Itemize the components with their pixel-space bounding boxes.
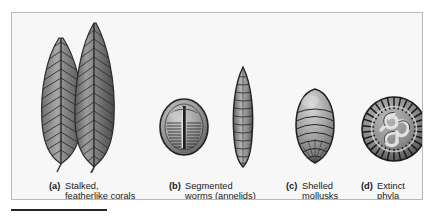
frond-fossils-svg (34, 18, 154, 173)
caption-a-line1: Stalked, (65, 181, 99, 191)
illustration-group-shelled-mollusks (284, 83, 346, 173)
caption-c-line2: mollusks (302, 191, 338, 200)
illustration-group-segmented-worms (157, 61, 267, 173)
caption-b: (b)Segmented worms (annelids) (169, 181, 256, 200)
spindle-worm-fossil (231, 67, 255, 167)
caption-a-tag: (a) (49, 181, 65, 191)
illustration-group-stalked-corals (34, 18, 154, 173)
caption-b-line1: Segmented (185, 181, 233, 191)
caption-d-line1: Extinct (377, 181, 405, 191)
caption-b-tag: (b) (169, 181, 185, 191)
discoid-extinct-fossil (362, 97, 423, 161)
caption-a-line2: featherlike corals (65, 191, 135, 200)
figure-panel: (a)Stalked, featherlike corals (b)Segmen… (11, 12, 423, 200)
bottom-divider-rule (11, 209, 107, 211)
oval-worm-fossil (160, 99, 208, 155)
extinct-fossil-svg (356, 81, 423, 173)
mollusk-fossil-svg (284, 83, 346, 173)
mollusk-shell-fossil (296, 89, 334, 163)
caption-d-line2: phyla (377, 191, 405, 200)
caption-d-tag: (d) (361, 181, 377, 191)
frond-fossil-large (73, 23, 116, 173)
caption-a: (a)Stalked, featherlike corals (49, 181, 135, 200)
caption-d: (d)Extinct phyla (361, 181, 405, 200)
illustration-group-extinct-phyla (356, 81, 423, 173)
caption-c-tag: (c) (286, 181, 302, 191)
caption-c-line1: Shelled (302, 181, 333, 191)
caption-b-line2: worms (annelids) (185, 191, 256, 200)
worm-fossils-svg (157, 61, 267, 173)
caption-c: (c)Shelled mollusks (286, 181, 338, 200)
